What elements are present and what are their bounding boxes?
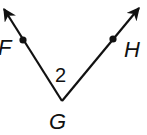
point-f-label: F (0, 35, 13, 60)
point-f-dot (19, 36, 26, 43)
angle-number-label: 2 (55, 64, 66, 86)
vertex-g-label: G (49, 109, 66, 134)
ray-gf (4, 9, 62, 101)
point-h-dot (109, 35, 116, 42)
point-h-label: H (124, 37, 140, 62)
angle-diagram: F H 2 G (0, 0, 147, 135)
